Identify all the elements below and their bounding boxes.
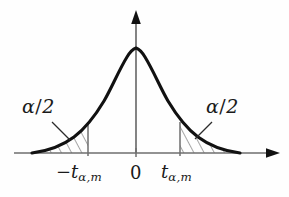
alpha-symbol-left: α: [22, 95, 35, 117]
positive-t-critical-label: tα,m: [161, 163, 192, 184]
alpha-over-two-label-left: α/2: [22, 97, 54, 116]
y-axis-arrowhead-icon: [131, 10, 141, 24]
t-subscript-positive: α,m: [168, 170, 192, 184]
alpha-denominator-left: 2: [42, 95, 54, 117]
right-tail-hatch-fill: [170, 110, 255, 158]
right-tail-shaded-region: [170, 110, 255, 158]
negative-t-critical-label: −tα,m: [56, 163, 102, 184]
y-axis: [131, 10, 141, 153]
alpha-over-two-label-right: α/2: [206, 97, 238, 116]
origin-label: 0: [130, 164, 141, 182]
right-annotation-leader-line: [195, 122, 212, 139]
alpha-denominator-right: 2: [226, 95, 238, 117]
minus-sign: −: [56, 161, 71, 182]
alpha-symbol-right: α: [206, 95, 219, 117]
x-axis-arrowhead-icon: [266, 148, 280, 158]
t-subscript-negative: α,m: [78, 170, 102, 184]
left-annotation-leader-line: [52, 122, 70, 140]
t-distribution-figure: α/2 α/2 −tα,m 0 tα,m: [0, 0, 289, 197]
